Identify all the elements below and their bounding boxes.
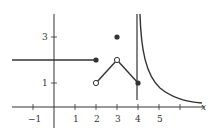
open-point xyxy=(93,80,98,85)
y-tick-label: 3 xyxy=(42,32,48,42)
hyperbola-branch xyxy=(140,14,202,103)
x-tick-label: −1 xyxy=(28,114,41,124)
closed-point xyxy=(135,80,140,85)
x-tick-label: 4 xyxy=(135,114,141,124)
open-point xyxy=(114,57,119,62)
x-tick-label: 1 xyxy=(73,114,79,124)
falling-segment xyxy=(117,60,138,83)
rising-segment xyxy=(96,60,117,83)
function-graph: −1 1 2 3 4 5 x 1 3 xyxy=(0,0,213,133)
x-tick-label: 2 xyxy=(94,114,100,124)
y-tick-label: 1 xyxy=(42,78,48,88)
closed-point xyxy=(93,57,98,62)
x-tick-label: 3 xyxy=(115,114,121,124)
isolated-point xyxy=(114,34,119,39)
x-tick-label: 5 xyxy=(157,114,163,124)
